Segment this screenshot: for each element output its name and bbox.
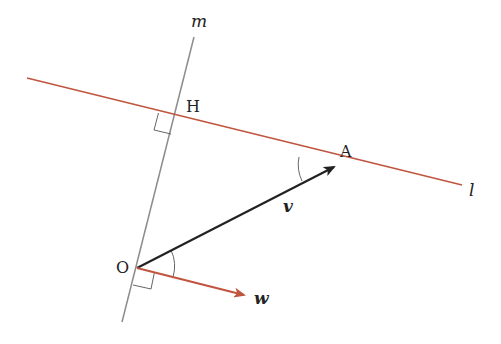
- label-w: w: [254, 288, 270, 308]
- label-m: m: [191, 11, 207, 31]
- label-l: l: [469, 180, 474, 200]
- label-o: O: [116, 258, 129, 277]
- label-h: H: [186, 97, 200, 116]
- geometry-diagram: m l H A O v w: [0, 0, 501, 344]
- right-angle-mark-h: [154, 113, 171, 134]
- label-v: v: [283, 196, 294, 216]
- angle-arc-a: [298, 157, 302, 181]
- angle-arc-o: [171, 250, 175, 277]
- vector-v: [137, 167, 334, 268]
- right-angle-mark-o: [133, 272, 155, 289]
- label-a: A: [339, 142, 352, 161]
- line-l: [27, 78, 462, 185]
